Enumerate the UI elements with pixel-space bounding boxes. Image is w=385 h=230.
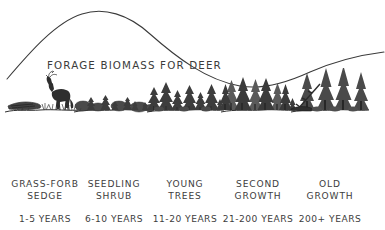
forest-succession-diagram: FORAGE BIOMASS FOR DEER xyxy=(0,0,385,230)
stage-label-line1: YOUNG xyxy=(167,179,204,189)
stage-label-line2: GROWTH xyxy=(234,191,281,201)
stage-columns: GRASS-FORB SEDGE 1-5 YEARS xyxy=(0,0,385,230)
stage-years: 200+ YEARS xyxy=(277,214,383,224)
stage-label-line2: SEDGE xyxy=(27,191,63,201)
stage-label-line2: GROWTH xyxy=(306,191,353,201)
old-growth-conifers-snag-illustration xyxy=(287,68,373,168)
stage-label-line2: TREES xyxy=(168,191,201,201)
stage-label-line1: OLD xyxy=(319,179,341,189)
stage-label: OLD GROWTH xyxy=(281,179,379,202)
stage-label-line1: SECOND xyxy=(236,179,280,189)
stage-label-line1: SEEDLING xyxy=(88,179,141,189)
stage-label-line2: SHRUB xyxy=(96,191,132,201)
